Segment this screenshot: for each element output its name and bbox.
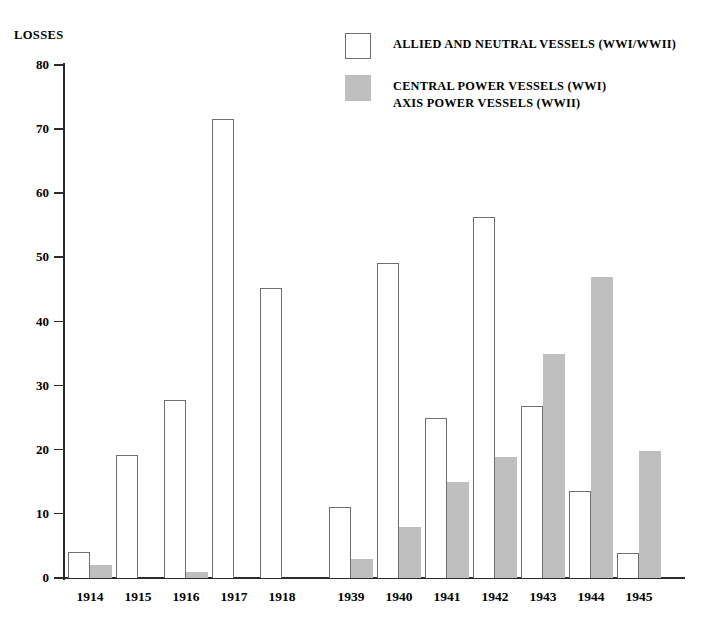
x-label-1918: 1918 bbox=[252, 589, 312, 605]
bar-axis-1944 bbox=[591, 277, 613, 578]
legend-label-allied: ALLIED AND NEUTRAL VESSELS (WWI/WWII) bbox=[393, 33, 676, 53]
bar-axis-1939 bbox=[351, 559, 373, 578]
legend-label-allied-line1: ALLIED AND NEUTRAL VESSELS (WWI/WWII) bbox=[393, 37, 676, 51]
legend-swatch-allied-icon bbox=[345, 33, 371, 59]
bar-allied-1944 bbox=[569, 491, 591, 578]
legend-entry-allied: ALLIED AND NEUTRAL VESSELS (WWI/WWII) bbox=[345, 33, 676, 59]
bar-axis-1942 bbox=[495, 457, 517, 578]
bar-axis-1945 bbox=[639, 451, 661, 578]
bar-allied-1942 bbox=[473, 217, 495, 578]
losses-bar-chart: LOSSES 01020304050607080 191419151916191… bbox=[0, 0, 707, 644]
legend-entry-axis: CENTRAL POWER VESSELS (WWI) AXIS POWER V… bbox=[345, 75, 606, 111]
bar-allied-1916 bbox=[164, 400, 186, 578]
legend-swatch-axis-icon bbox=[345, 75, 371, 101]
legend-label-axis-line2: AXIS POWER VESSELS (WWII) bbox=[393, 95, 606, 112]
bar-allied-1943 bbox=[521, 406, 543, 578]
bar-allied-1941 bbox=[425, 418, 447, 578]
bar-allied-1945 bbox=[617, 553, 639, 578]
bar-allied-1917 bbox=[212, 119, 234, 578]
bar-axis-1943 bbox=[543, 354, 565, 578]
bar-axis-1914 bbox=[90, 565, 112, 578]
legend-label-axis-line1: CENTRAL POWER VESSELS (WWI) bbox=[393, 79, 606, 93]
legend-label-axis: CENTRAL POWER VESSELS (WWI) AXIS POWER V… bbox=[393, 75, 606, 111]
bar-allied-1939 bbox=[329, 507, 351, 578]
bar-allied-1914 bbox=[68, 552, 90, 578]
bar-allied-1918 bbox=[260, 288, 282, 578]
bar-axis-1940 bbox=[399, 527, 421, 578]
bar-allied-1915 bbox=[116, 455, 138, 578]
bar-axis-1916 bbox=[186, 572, 208, 578]
bar-allied-1940 bbox=[377, 263, 399, 578]
bar-axis-1941 bbox=[447, 482, 469, 578]
x-label-1945: 1945 bbox=[609, 589, 669, 605]
